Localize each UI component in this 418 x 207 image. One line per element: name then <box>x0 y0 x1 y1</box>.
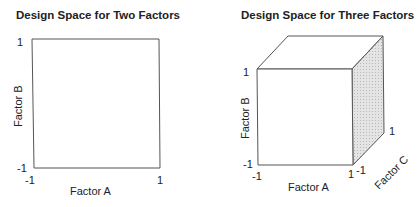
right-y-tick-bottom: -1 <box>243 158 253 170</box>
right-x-axis-label: Factor A <box>288 181 329 193</box>
right-z-tick-far: 1 <box>389 125 395 137</box>
cube-front-face <box>257 69 353 165</box>
left-x-tick-left: -1 <box>25 174 35 186</box>
left-chart-title: Design Space for Two Factors <box>16 9 180 21</box>
right-y-axis-label: Factor B <box>239 97 251 139</box>
left-y-axis-label: Factor B <box>12 85 24 127</box>
left-y-tick-bottom: -1 <box>17 162 27 174</box>
right-x-tick-left: -1 <box>252 170 262 182</box>
left-y-tick-top: 1 <box>17 36 23 48</box>
two-factor-square <box>32 39 160 168</box>
right-x-tick-right: 1 <box>348 168 354 180</box>
left-x-axis-label: Factor A <box>70 185 111 197</box>
left-x-tick-right: 1 <box>157 174 163 186</box>
right-y-tick-top: 1 <box>243 66 249 78</box>
right-chart-title: Design Space for Three Factors <box>241 9 414 21</box>
right-z-tick-near: -1 <box>356 164 366 176</box>
